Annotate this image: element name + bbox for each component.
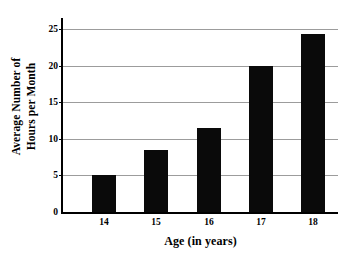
bar-age-17 — [249, 66, 273, 212]
x-tick-label-14: 14 — [84, 216, 124, 228]
x-tick-label-15: 15 — [136, 216, 176, 228]
bar-age-15 — [144, 150, 168, 212]
ytick-mark-20 — [59, 66, 63, 67]
x-axis-title: Age (in years) — [63, 234, 338, 249]
gridline-20 — [63, 66, 338, 67]
y-tick-label-10: 10 — [36, 134, 58, 144]
gridline-15 — [63, 102, 338, 103]
ytick-mark-25 — [59, 29, 63, 30]
bar-age-16 — [197, 128, 221, 212]
x-tick-label-17: 17 — [241, 216, 281, 228]
plot-area — [63, 26, 338, 212]
y-axis-line — [61, 18, 63, 214]
x-tick-label-16: 16 — [189, 216, 229, 228]
bar-chart-figure: Average Number of Hours per Month 25 20 … — [0, 0, 347, 257]
y-tick-label-15: 15 — [36, 97, 58, 107]
bar-age-18 — [301, 34, 325, 212]
ytick-mark-5 — [59, 175, 63, 176]
y-tick-label-20: 20 — [36, 61, 58, 71]
y-axis-title-line-1: Average Number of — [11, 57, 23, 155]
gridline-25 — [63, 29, 338, 30]
y-tick-label-5: 5 — [36, 170, 58, 180]
x-tick-label-18: 18 — [293, 216, 333, 228]
y-tick-label-25: 25 — [36, 24, 58, 34]
ytick-mark-15 — [59, 102, 63, 103]
bar-age-14 — [92, 175, 116, 212]
ytick-mark-10 — [59, 139, 63, 140]
x-axis-line — [61, 212, 338, 214]
y-tick-label-0: 0 — [36, 207, 58, 217]
